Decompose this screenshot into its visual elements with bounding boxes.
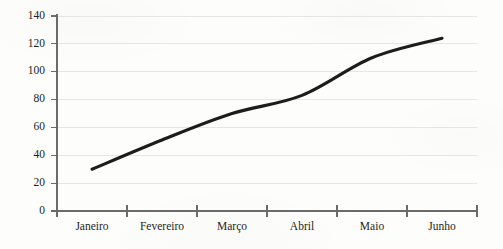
x-tick-label-marco: Março xyxy=(217,220,247,233)
data-series-line xyxy=(92,38,442,169)
y-tick-label-20: 20 xyxy=(34,176,46,188)
line-chart-figure: 140 120 100 80 60 40 20 0 Janeiro Fevere… xyxy=(0,0,503,249)
x-tick-label-abril: Abril xyxy=(290,220,314,232)
y-tick-label-140: 140 xyxy=(28,9,46,21)
x-tick-label-janeiro: Janeiro xyxy=(75,220,108,232)
y-tick-marks xyxy=(51,16,57,211)
y-tick-label-60: 60 xyxy=(34,120,46,132)
y-tick-label-120: 120 xyxy=(28,37,46,49)
y-tick-label-100: 100 xyxy=(28,64,46,76)
x-tick-label-maio: Maio xyxy=(360,220,385,232)
x-tick-labels: Janeiro Fevereiro Março Abril Maio Junho xyxy=(75,220,456,233)
y-tick-label-40: 40 xyxy=(34,148,46,160)
x-tick-label-fevereiro: Fevereiro xyxy=(140,220,184,232)
x-tick-label-junho: Junho xyxy=(428,220,456,232)
y-tick-label-0: 0 xyxy=(39,204,45,216)
y-tick-labels: 140 120 100 80 60 40 20 0 xyxy=(28,9,46,216)
chart-plot-area: 140 120 100 80 60 40 20 0 Janeiro Fevere… xyxy=(0,0,503,249)
y-tick-label-80: 80 xyxy=(34,92,46,104)
